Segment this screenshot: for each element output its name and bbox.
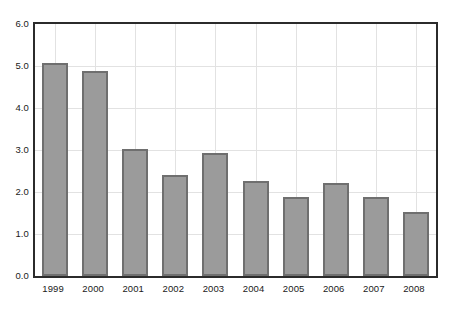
y-axis-tick-label: 2.0	[1, 187, 29, 197]
y-axis: 0.01.02.03.04.05.06.0	[0, 22, 29, 278]
plot-area	[33, 22, 438, 278]
bar-2001	[122, 149, 148, 276]
bar-2006	[323, 183, 349, 276]
x-axis-tick-label: 2000	[73, 283, 113, 295]
bar-chart: 0.01.02.03.04.05.06.0 199920002001200220…	[0, 0, 450, 311]
bar-2005	[283, 197, 309, 276]
y-axis-tick-label: 4.0	[1, 103, 29, 113]
y-axis-tick-label: 6.0	[1, 19, 29, 29]
x-axis-tick-label: 1999	[33, 283, 73, 295]
bar-2007	[363, 197, 389, 276]
x-axis-tick-label: 2001	[113, 283, 153, 295]
y-axis-tick-label: 5.0	[1, 61, 29, 71]
x-axis-tick-label: 2004	[234, 283, 274, 295]
bar-2008	[403, 212, 429, 276]
bar-1999	[42, 63, 68, 276]
x-axis: 1999200020012002200320042005200620072008	[33, 283, 438, 299]
x-axis-tick-label: 2003	[193, 283, 233, 295]
y-axis-tick-label: 3.0	[1, 145, 29, 155]
y-axis-tick-label: 0.0	[1, 271, 29, 281]
x-axis-tick-label: 2005	[274, 283, 314, 295]
y-axis-tick-label: 1.0	[1, 229, 29, 239]
bar-2004	[243, 181, 269, 276]
x-axis-tick-label: 2002	[153, 283, 193, 295]
x-axis-tick-label: 2008	[394, 283, 434, 295]
plot-inner	[35, 24, 436, 276]
bar-2003	[202, 153, 228, 276]
bar-2000	[82, 71, 108, 276]
bar-2002	[162, 175, 188, 276]
x-axis-tick-label: 2006	[314, 283, 354, 295]
x-axis-tick-label: 2007	[354, 283, 394, 295]
